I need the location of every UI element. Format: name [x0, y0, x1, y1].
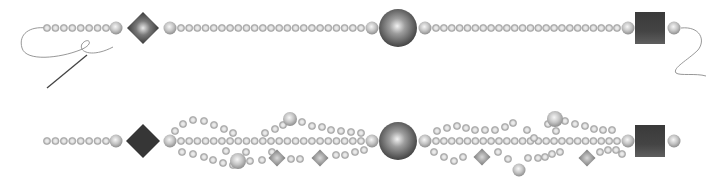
seed-bead [276, 24, 283, 31]
seed-bead [77, 24, 84, 31]
seed-bead [487, 24, 494, 31]
focal-round-bead [379, 122, 417, 160]
spacer-bead [668, 22, 681, 35]
seed-bead [487, 137, 494, 144]
seed-bead [226, 24, 233, 31]
bead-layer [43, 9, 680, 177]
seed-bead [613, 24, 620, 31]
cube-bead [635, 12, 665, 44]
seed-bead [472, 137, 479, 144]
accent-round-bead [283, 112, 297, 126]
seed-bead [316, 137, 323, 144]
seed-bead [333, 137, 340, 144]
spacer-bead [366, 135, 379, 148]
spacer-bead [164, 135, 177, 148]
seed-bead [351, 148, 358, 155]
seed-bead [448, 24, 455, 31]
spacer-bead [366, 22, 379, 35]
seed-bead [43, 137, 50, 144]
seed-bead [527, 24, 534, 31]
seed-bead [300, 137, 307, 144]
seed-bead [102, 137, 109, 144]
diamond-bead [312, 150, 329, 167]
seed-bead [243, 24, 250, 31]
seed-bead [503, 137, 510, 144]
seed-bead [341, 151, 348, 158]
seed-bead [534, 154, 541, 161]
diamond-bead [474, 149, 491, 166]
diamond-bead [126, 124, 160, 158]
seed-bead [177, 137, 184, 144]
seed-bead [349, 137, 356, 144]
seed-bead [284, 24, 291, 31]
seed-bead [333, 24, 340, 31]
seed-bead [284, 137, 291, 144]
seed-bead [618, 150, 625, 157]
seed-bead [357, 24, 364, 31]
seed-bead [440, 153, 447, 160]
seed-bead [523, 126, 530, 133]
seed-bead [189, 150, 196, 157]
seed-bead [94, 137, 101, 144]
seed-bead [210, 24, 217, 31]
seed-bead [325, 137, 332, 144]
seed-bead [501, 123, 508, 130]
seed-bead [558, 137, 565, 144]
seed-bead [590, 137, 597, 144]
seed-bead [462, 124, 469, 131]
seed-bead [177, 24, 184, 31]
seed-bead [258, 156, 265, 163]
seed-bead [495, 137, 502, 144]
beading-illustration [0, 0, 720, 191]
seed-bead [432, 24, 439, 31]
seed-bead [503, 24, 510, 31]
seed-bead [471, 126, 478, 133]
seed-bead [432, 137, 439, 144]
seed-bead [298, 118, 305, 125]
seed-bead [590, 24, 597, 31]
seed-bead [598, 24, 605, 31]
seed-bead [511, 24, 518, 31]
seed-bead [543, 137, 550, 144]
seed-bead [178, 148, 185, 155]
seed-bead [341, 137, 348, 144]
seed-bead [535, 24, 542, 31]
seed-bead [287, 155, 294, 162]
seed-bead [210, 137, 217, 144]
seed-bead [430, 148, 437, 155]
spacer-bead [164, 22, 177, 35]
seed-bead [222, 147, 229, 154]
seed-bead [582, 137, 589, 144]
seed-bead [218, 24, 225, 31]
spacer-bead [419, 135, 432, 148]
seed-bead [102, 24, 109, 31]
seed-bead [209, 156, 216, 163]
seed-bead [608, 126, 615, 133]
seed-bead [581, 122, 588, 129]
seed-bead [509, 119, 516, 126]
seed-bead [357, 129, 364, 136]
cube-bead [635, 125, 665, 157]
seed-bead [606, 137, 613, 144]
seed-bead [69, 24, 76, 31]
seed-bead [267, 24, 274, 31]
seed-bead [171, 127, 178, 134]
seed-bead [347, 128, 354, 135]
seed-bead [598, 137, 605, 144]
seed-bead [574, 137, 581, 144]
seed-bead [189, 116, 196, 123]
accent-round-bead [230, 153, 246, 169]
seed-bead [464, 137, 471, 144]
seed-bead [472, 24, 479, 31]
seed-bead [480, 24, 487, 31]
seed-bead [202, 24, 209, 31]
seed-bead [613, 137, 620, 144]
spacer-bead [668, 135, 681, 148]
seed-bead [341, 24, 348, 31]
seed-bead [259, 24, 266, 31]
seed-bead [599, 126, 606, 133]
seed-bead [495, 24, 502, 31]
seed-bead [52, 24, 59, 31]
seed-bead [179, 120, 186, 127]
seed-bead [251, 137, 258, 144]
